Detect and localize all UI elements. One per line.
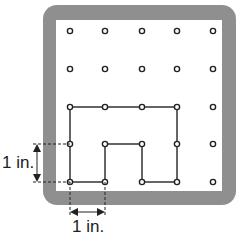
peg bbox=[102, 104, 107, 109]
peg bbox=[174, 66, 179, 71]
peg bbox=[210, 104, 215, 109]
peg bbox=[139, 179, 144, 184]
geoboard-diagram bbox=[0, 0, 237, 238]
peg bbox=[102, 66, 107, 71]
horizontal-measure-label: 1 in. bbox=[72, 217, 104, 237]
peg bbox=[210, 141, 215, 146]
peg bbox=[102, 28, 107, 33]
peg bbox=[102, 141, 107, 146]
peg bbox=[210, 28, 215, 33]
peg bbox=[139, 141, 144, 146]
peg bbox=[174, 28, 179, 33]
peg bbox=[210, 66, 215, 71]
peg bbox=[139, 28, 144, 33]
peg bbox=[139, 104, 144, 109]
geoboard-surface bbox=[56, 20, 222, 191]
peg bbox=[210, 179, 215, 184]
peg bbox=[139, 66, 144, 71]
peg bbox=[67, 66, 72, 71]
peg bbox=[174, 141, 179, 146]
peg bbox=[67, 28, 72, 33]
peg bbox=[174, 104, 179, 109]
vertical-measure-label: 1 in. bbox=[2, 153, 34, 173]
peg bbox=[174, 179, 179, 184]
peg bbox=[67, 104, 72, 109]
